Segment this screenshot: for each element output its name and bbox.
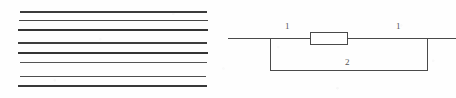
rule-line	[20, 76, 206, 77]
loop-right-vertical-wire	[427, 38, 428, 71]
rule-line	[18, 52, 208, 54]
branch-label-bottom: 2	[345, 58, 350, 67]
branch-label-right: 1	[396, 22, 401, 31]
rule-line	[19, 20, 208, 21]
rule-line	[20, 62, 207, 63]
loop-left-vertical-wire	[270, 38, 271, 71]
rule-line	[18, 85, 207, 87]
figure-root: 1 1 2	[0, 0, 456, 98]
rule-line	[18, 42, 207, 44]
loop-bottom-wire	[270, 70, 428, 71]
horizontal-rule-stack	[0, 0, 228, 98]
resistor-element	[310, 32, 348, 45]
branch-label-left: 1	[285, 22, 290, 31]
rule-line	[20, 11, 207, 13]
rule-line	[18, 29, 208, 31]
circuit-diagram: 1 1 2	[228, 0, 456, 98]
